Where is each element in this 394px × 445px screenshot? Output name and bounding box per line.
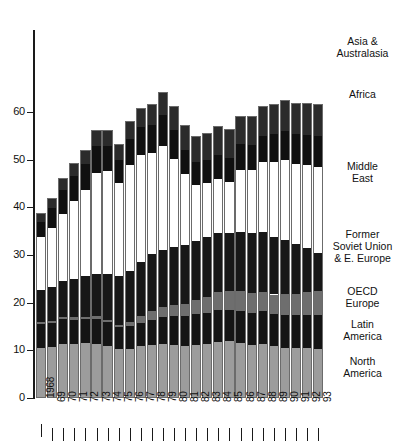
bar-segment (102, 322, 112, 345)
bar-segment (169, 316, 179, 344)
bar-segment (224, 341, 234, 398)
bar-segment (58, 281, 68, 317)
x-tick-label: 69 (56, 391, 67, 402)
bar-segment (58, 178, 68, 189)
x-tick-label: 85 (233, 391, 244, 402)
bar-87 (247, 116, 257, 398)
legend-entry-north-america: NorthAmerica (331, 355, 394, 379)
x-tick-label: 75 (123, 391, 134, 402)
bar-segment (136, 108, 146, 128)
bar-segment (158, 307, 168, 317)
bar-segment (213, 310, 223, 342)
bar-segment (258, 344, 268, 398)
bar-segment (102, 130, 112, 146)
x-tick-mark (63, 428, 64, 441)
x-tick-mark (274, 428, 275, 441)
x-tick-label: 77 (145, 391, 156, 402)
bar-segment (147, 104, 157, 125)
x-tick-mark (152, 428, 153, 441)
bar-93 (313, 104, 323, 398)
x-tick-mark (174, 428, 175, 441)
bar-segment (158, 146, 168, 250)
x-tick-label: 78 (156, 391, 167, 402)
bar-71 (69, 163, 79, 398)
x-tick-mark (252, 428, 253, 441)
bar-segment (235, 232, 245, 292)
bar-90 (280, 100, 290, 398)
stacked-bar-chart: 6050403020100 19686970717273747576777879… (0, 0, 394, 445)
bar-segment (158, 250, 168, 308)
bar-segment (235, 144, 245, 169)
bar-segment (147, 311, 157, 320)
bar-segment (36, 213, 46, 223)
bar-segment (302, 292, 312, 315)
x-tick-label: 84 (222, 391, 233, 402)
x-tick-label: 80 (178, 391, 189, 402)
bar-segment (47, 228, 57, 287)
bar-segment (180, 174, 190, 246)
bar-segment (169, 247, 179, 305)
legend-label-line: East (331, 172, 394, 184)
bar-segment (147, 345, 157, 398)
bar-segment (91, 344, 101, 398)
bar-segment (180, 316, 190, 345)
bar-segment (313, 253, 323, 292)
bar-segment (125, 326, 135, 349)
bar-segment (224, 158, 234, 183)
bar-segment (114, 325, 124, 328)
legend-label-line: OECD (331, 285, 394, 297)
bar-segment (202, 183, 212, 237)
x-tick-mark (196, 428, 197, 441)
bar-segment (269, 295, 279, 315)
bar-segment (291, 294, 301, 315)
bar-segment (213, 292, 223, 311)
bar-segment (136, 127, 146, 155)
bar-segment (302, 135, 312, 166)
x-tick-label: 90 (289, 391, 300, 402)
legend-entry-middle-east: MiddleEast (331, 160, 394, 184)
x-tick-mark (41, 424, 42, 437)
bar-segment (213, 179, 223, 233)
bar-segment (47, 287, 57, 321)
bar-segment (114, 327, 124, 349)
bar-segment (136, 316, 146, 323)
bar-segment (169, 345, 179, 398)
bar-segment (291, 134, 301, 164)
bar-segment (125, 139, 135, 165)
bar-segment (247, 145, 257, 170)
x-tick-mark (97, 428, 98, 441)
x-tick-label: 70 (67, 391, 78, 402)
bar-segment (202, 313, 212, 344)
legend-label-line: & E. Europe (331, 252, 394, 264)
bar-79 (158, 92, 168, 398)
bar-segment (202, 133, 212, 160)
bar-segment (180, 245, 190, 304)
x-tick-label: 88 (267, 391, 278, 402)
x-tick-mark (119, 428, 120, 441)
x-tick-mark (229, 428, 230, 441)
legend-label-line: Africa (331, 88, 394, 100)
bar-segment (235, 170, 245, 232)
bar-70 (58, 178, 68, 398)
bar-segment (80, 317, 90, 319)
bar-segment (114, 183, 124, 276)
bar-segment (69, 201, 79, 279)
bar-segment (125, 271, 135, 323)
bar-92 (302, 103, 312, 398)
bar-segment (58, 214, 68, 281)
bar-segment (169, 130, 179, 159)
bar-segment (302, 248, 312, 291)
bar-segment (91, 316, 101, 318)
bar-segment (235, 291, 245, 311)
bar-segment (47, 321, 57, 323)
bar-segment (235, 311, 245, 343)
bar-segment (158, 115, 168, 146)
bar-segment (69, 176, 79, 201)
bar-segment (269, 162, 279, 236)
bar-77 (136, 108, 146, 398)
bar-segment (114, 144, 124, 160)
x-tick-label: 71 (78, 391, 89, 402)
bar-75 (114, 144, 124, 398)
bar-segment (147, 320, 157, 345)
bar-segment (147, 153, 157, 254)
